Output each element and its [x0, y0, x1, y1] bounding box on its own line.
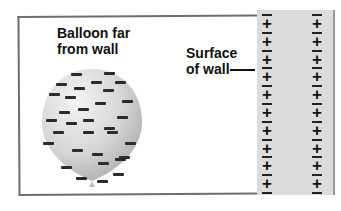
balloon-label-line1: Balloon far: [57, 25, 130, 41]
minus-charge-icon: [91, 81, 102, 84]
minus-charge-icon: [78, 108, 89, 111]
plus-charge-icon: +: [260, 124, 274, 138]
minus-charge-icon: [115, 81, 126, 84]
plus-charge-icon: +: [310, 17, 324, 31]
minus-charge-icon: [71, 73, 82, 76]
plus-charge-icon: +: [310, 159, 324, 173]
wall-label: Surface of wall: [186, 45, 237, 77]
minus-charge-icon: [97, 180, 108, 183]
plus-charge-icon: +: [310, 35, 324, 49]
minus-charge-icon: [72, 149, 83, 152]
minus-charge-icon: [76, 177, 87, 180]
plus-charge-icon: +: [310, 142, 324, 156]
plus-charge-icon: +: [260, 142, 274, 156]
minus-charge-icon: [119, 156, 130, 159]
minus-charge-icon: [65, 96, 76, 99]
minus-charge-icon: [98, 162, 109, 165]
plus-charge-icon: +: [260, 88, 274, 102]
minus-charge-icon: [312, 192, 322, 194]
wall-label-line1: Surface: [186, 45, 237, 61]
minus-charge-icon: [262, 192, 272, 194]
minus-charge-icon: [53, 131, 64, 134]
minus-charge-icon: [117, 116, 128, 119]
plus-charge-icon: +: [310, 124, 324, 138]
plus-charge-icon: +: [260, 53, 274, 67]
minus-charge-icon: [83, 119, 94, 122]
minus-charge-icon: [107, 131, 118, 134]
minus-charge-icon: [83, 131, 94, 134]
minus-charge-icon: [49, 93, 60, 96]
plus-charge-icon: +: [310, 177, 324, 191]
minus-charge-icon: [56, 83, 67, 86]
minus-charge-icon: [104, 127, 115, 130]
minus-charge-icon: [113, 173, 124, 176]
minus-charge-icon: [46, 119, 57, 122]
minus-charge-icon: [43, 142, 54, 145]
minus-charge-icon: [122, 100, 133, 103]
plus-charge-icon: +: [310, 106, 324, 120]
wall-label-leader-line: [230, 69, 255, 71]
minus-charge-icon: [103, 89, 114, 92]
plus-charge-icon: +: [260, 159, 274, 173]
wall-edge: [333, 10, 335, 195]
plus-charge-icon: +: [260, 17, 274, 31]
minus-charge-icon: [66, 122, 77, 125]
minus-charge-icon: [61, 166, 72, 169]
plus-charge-icon: +: [310, 53, 324, 67]
balloon-label-line2: from wall: [57, 41, 130, 57]
minus-charge-icon: [125, 142, 136, 145]
plus-charge-icon: +: [260, 177, 274, 191]
minus-charge-icon: [95, 102, 106, 105]
plus-charge-icon: +: [310, 70, 324, 84]
minus-charge-icon: [74, 87, 85, 90]
minus-charge-icon: [92, 153, 103, 156]
plus-charge-icon: +: [260, 106, 274, 120]
minus-charge-icon: [104, 72, 115, 75]
balloon-label: Balloon far from wall: [57, 25, 130, 57]
plus-charge-icon: +: [310, 88, 324, 102]
minus-charge-icon: [59, 111, 70, 114]
plus-charge-icon: +: [260, 70, 274, 84]
plus-charge-icon: +: [260, 35, 274, 49]
